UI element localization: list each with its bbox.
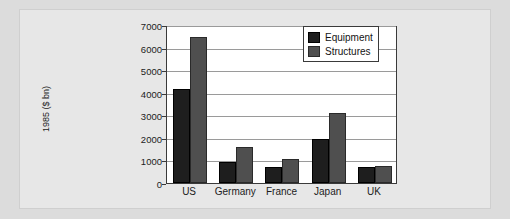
bar-equipment-japan[interactable] bbox=[312, 139, 329, 183]
bar-equipment-france[interactable] bbox=[265, 167, 282, 183]
bar-group bbox=[213, 27, 259, 183]
x-tick-label-france: France bbox=[266, 186, 297, 197]
bar-structures-us[interactable] bbox=[190, 37, 207, 183]
y-tick-mark bbox=[162, 184, 166, 185]
bar-structures-uk[interactable] bbox=[375, 166, 392, 183]
y-tick-label: 6000 bbox=[114, 43, 162, 54]
y-tick-label: 0 bbox=[114, 179, 162, 190]
bar-equipment-us[interactable] bbox=[173, 89, 190, 183]
figure-frame: 1985 ($ bn) 0100020003000400050006000700… bbox=[0, 0, 510, 219]
y-tick-label: 5000 bbox=[114, 66, 162, 77]
bar-structures-france[interactable] bbox=[282, 159, 299, 183]
x-axis-tick-labels: USGermanyFranceJapanUK bbox=[166, 186, 397, 202]
legend-label: Structures bbox=[325, 46, 371, 57]
y-axis-tick-labels: 01000200030004000500060007000 bbox=[111, 26, 162, 184]
bar-equipment-uk[interactable] bbox=[358, 167, 375, 183]
y-tick-label: 1000 bbox=[114, 156, 162, 167]
bar-group bbox=[167, 27, 213, 183]
x-tick-label-japan: Japan bbox=[314, 186, 341, 197]
y-tick-label: 3000 bbox=[114, 111, 162, 122]
legend-swatch-icon bbox=[308, 46, 320, 57]
x-tick-label-germany: Germany bbox=[215, 186, 256, 197]
x-tick-label-uk: UK bbox=[367, 186, 381, 197]
legend-swatch-icon bbox=[308, 32, 320, 43]
y-axis-title: 1985 ($ bn) bbox=[41, 54, 51, 164]
legend-item-equipment[interactable]: Equipment bbox=[308, 30, 373, 44]
legend-item-structures[interactable]: Structures bbox=[308, 44, 373, 58]
bar-structures-germany[interactable] bbox=[236, 147, 253, 183]
bar-chart: 1985 ($ bn) 0100020003000400050006000700… bbox=[0, 0, 510, 219]
bar-group bbox=[259, 27, 305, 183]
y-tick-label: 7000 bbox=[114, 21, 162, 32]
y-tick-label: 4000 bbox=[114, 88, 162, 99]
bar-equipment-germany[interactable] bbox=[219, 162, 236, 183]
y-tick-label: 2000 bbox=[114, 133, 162, 144]
chart-legend: EquipmentStructures bbox=[303, 26, 379, 62]
bar-structures-japan[interactable] bbox=[329, 113, 346, 183]
x-tick-label-us: US bbox=[182, 186, 196, 197]
legend-label: Equipment bbox=[325, 32, 373, 43]
